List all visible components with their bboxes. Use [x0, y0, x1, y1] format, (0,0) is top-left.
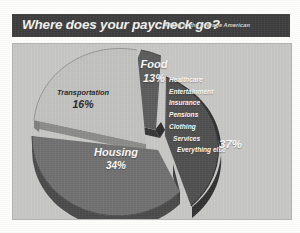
- chart-title-bar: Where does your paycheck go? A look at t…: [12, 14, 290, 37]
- pie-slice-housing[interactable]: [32, 136, 180, 219]
- pie-chart-panel: Food 13% Transportation 16% Housing 34% …: [12, 43, 292, 220]
- pie-chart-graphic: [13, 44, 291, 219]
- pie-slice-transportation[interactable]: [34, 48, 146, 152]
- pie-chart: Food 13% Transportation 16% Housing 34% …: [13, 44, 291, 219]
- page-subtitle: A look at the average American: [164, 22, 250, 28]
- pie-slice-other[interactable]: [165, 70, 283, 218]
- scanned-page: Where does your paycheck go? A look at t…: [0, 0, 300, 233]
